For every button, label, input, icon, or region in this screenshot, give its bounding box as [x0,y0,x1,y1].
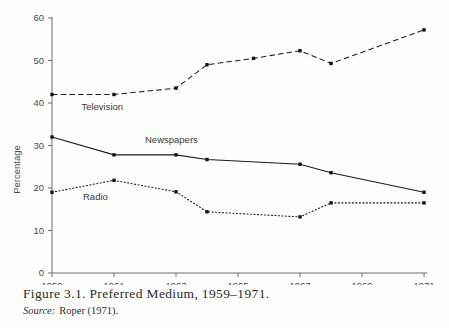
series-point-television [50,93,53,96]
series-labels-group: TelevisionNewspapersRadio [81,101,198,202]
series-label-television: Television [81,101,123,112]
x-tick-label: 1959 [41,280,62,285]
series-point-radio [205,210,208,213]
y-tick-label: 60 [33,12,44,23]
source-citation: Roper (1971). [59,305,118,316]
series-point-television [112,93,115,96]
series-point-newspapers [422,191,425,194]
chart-plot-area: 0102030405060195919611963196519671969197… [0,0,449,285]
y-tick-label: 10 [33,225,44,236]
axes-group: 0102030405060195919611963196519671969197… [11,12,435,285]
caption-block: Figure 3.1. Preferred Medium, 1959–1971.… [23,286,433,316]
series-point-television [252,57,255,60]
series-point-radio [174,190,177,193]
series-point-television [422,28,425,31]
series-point-radio [298,215,301,218]
y-tick-label: 20 [33,182,44,193]
series-point-radio [112,179,115,182]
series-point-television [174,86,177,89]
series-point-radio [422,201,425,204]
series-point-newspapers [50,135,53,138]
y-tick-label: 50 [33,55,44,66]
series-line-newspapers [52,137,424,192]
series-point-newspapers [205,158,208,161]
series-point-television [329,62,332,65]
y-tick-label: 40 [33,97,44,108]
x-tick-label: 1969 [351,280,372,285]
x-tick-label: 1971 [413,280,434,285]
series-point-television [298,49,301,52]
x-tick-label: 1961 [103,280,124,285]
series-point-newspapers [174,153,177,156]
series-point-newspapers [112,153,115,156]
series-point-newspapers [329,171,332,174]
y-tick-label: 30 [33,140,44,151]
series-point-radio [50,191,53,194]
series-point-television [205,63,208,66]
figure-caption: Figure 3.1. Preferred Medium, 1959–1971. [23,286,433,302]
x-tick-label: 1965 [227,280,248,285]
series-label-newspapers: Newspapers [145,134,198,145]
figure-page: 0102030405060195919611963196519671969197… [0,0,449,328]
source-line: Source:Roper (1971). [23,305,433,316]
x-tick-label: 1967 [289,280,310,285]
series-label-radio: Radio [83,191,108,202]
series-point-newspapers [298,163,301,166]
y-tick-label: 0 [39,267,44,278]
series-group [50,28,425,218]
source-label: Source: [23,305,55,316]
series-point-radio [329,201,332,204]
y-axis-title: Percentage [11,145,22,194]
x-tick-label: 1963 [165,280,186,285]
series-line-television [52,30,424,95]
line-chart: 0102030405060195919611963196519671969197… [0,0,449,285]
